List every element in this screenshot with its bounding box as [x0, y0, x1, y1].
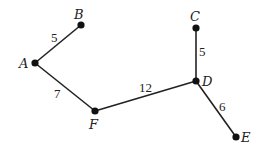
node-B [77, 21, 84, 28]
node-E [232, 133, 239, 140]
nodes: ABCDEF [18, 7, 251, 145]
node-label-C: C [190, 9, 200, 24]
edge-weight-D-E: 6 [219, 99, 226, 114]
node-D [192, 77, 199, 84]
node-label-D: D [201, 74, 213, 89]
node-label-F: F [88, 117, 99, 132]
node-A [31, 59, 38, 66]
edge-A-F [35, 63, 95, 111]
edge-weight-A-B: 5 [51, 30, 58, 45]
edge-weight-A-F: 7 [54, 86, 61, 101]
edge-weight-C-D: 5 [199, 44, 206, 59]
node-label-A: A [18, 56, 28, 71]
edge-D-E [196, 81, 236, 137]
node-F [91, 107, 98, 114]
edge-weight-F-D: 12 [139, 80, 152, 95]
node-C [192, 24, 199, 31]
node-label-E: E [240, 130, 251, 145]
node-label-B: B [73, 7, 84, 22]
graph-diagram: 571256 ABCDEF [0, 0, 253, 150]
edge-A-B [35, 25, 81, 63]
